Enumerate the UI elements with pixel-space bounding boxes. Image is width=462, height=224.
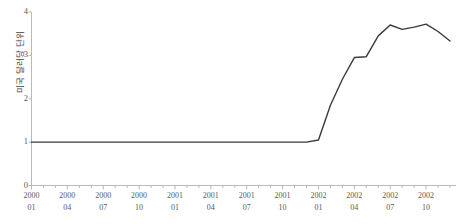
x-tick-month: 10 — [406, 202, 446, 214]
x-tick-month: 04 — [334, 202, 374, 214]
x-tick-month: 10 — [263, 202, 303, 214]
x-tick-year: 2000 — [47, 190, 87, 202]
x-tick-month: 01 — [298, 202, 338, 214]
x-tick-year: 2002 — [334, 190, 374, 202]
x-tick-label: 200204 — [334, 190, 374, 215]
x-tick-month: 07 — [227, 202, 267, 214]
x-tick-month: 07 — [370, 202, 410, 214]
x-tick-label: 200104 — [191, 190, 231, 215]
series-line — [32, 24, 451, 142]
x-tick-month: 01 — [12, 202, 52, 214]
x-tick-label: 200007 — [83, 190, 123, 215]
x-tick-month: 01 — [155, 202, 195, 214]
x-tick-year: 2002 — [406, 190, 446, 202]
x-tick-label: 200201 — [298, 190, 338, 215]
x-tick-label: 200004 — [47, 190, 87, 215]
axis-lines — [32, 12, 457, 186]
x-tick-year: 2001 — [263, 190, 303, 202]
x-tick-label: 200101 — [155, 190, 195, 215]
x-tick-label: 200001 — [12, 190, 52, 215]
x-tick-year: 2001 — [227, 190, 267, 202]
x-tick-year: 2002 — [370, 190, 410, 202]
x-tick-year: 2002 — [298, 190, 338, 202]
x-tick-label: 200207 — [370, 190, 410, 215]
x-tick-year: 2001 — [155, 190, 195, 202]
x-tick-label: 200110 — [263, 190, 303, 215]
x-tick-label: 200107 — [227, 190, 267, 215]
x-tick-label: 200010 — [119, 190, 159, 215]
x-axis-ticks — [32, 186, 451, 190]
x-tick-year: 2001 — [191, 190, 231, 202]
x-tick-year: 2000 — [119, 190, 159, 202]
x-tick-label: 200210 — [406, 190, 446, 215]
x-tick-month: 10 — [119, 202, 159, 214]
x-tick-year: 2000 — [83, 190, 123, 202]
x-tick-month: 04 — [191, 202, 231, 214]
x-tick-month: 07 — [83, 202, 123, 214]
x-tick-month: 04 — [47, 202, 87, 214]
chart-figure: 미국 달러당 단위 01234 200001200004200007200010… — [0, 0, 462, 224]
x-tick-year: 2000 — [12, 190, 52, 202]
